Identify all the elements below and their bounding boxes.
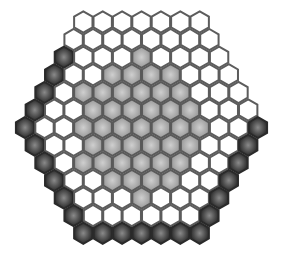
black-stone-cell[interactable] <box>191 223 209 244</box>
black-stone-cell[interactable] <box>35 152 53 173</box>
empty-cell[interactable] <box>74 47 92 68</box>
empty-cell[interactable] <box>239 99 257 120</box>
empty-cell[interactable] <box>152 47 170 68</box>
empty-cell[interactable] <box>220 64 238 85</box>
empty-cell[interactable] <box>229 117 247 138</box>
empty-cell[interactable] <box>64 64 82 85</box>
empty-cell[interactable] <box>191 47 209 68</box>
gray-stone-cell[interactable] <box>123 135 141 156</box>
empty-cell[interactable] <box>181 170 199 191</box>
empty-cell[interactable] <box>113 11 131 32</box>
empty-cell[interactable] <box>113 47 131 68</box>
gray-stone-cell[interactable] <box>152 152 170 173</box>
empty-cell[interactable] <box>161 205 179 226</box>
gray-stone-cell[interactable] <box>171 117 189 138</box>
empty-cell[interactable] <box>171 11 189 32</box>
empty-cell[interactable] <box>161 29 179 50</box>
black-stone-cell[interactable] <box>55 187 73 208</box>
empty-cell[interactable] <box>181 205 199 226</box>
black-stone-cell[interactable] <box>200 205 218 226</box>
empty-cell[interactable] <box>152 187 170 208</box>
empty-cell[interactable] <box>200 170 218 191</box>
empty-cell[interactable] <box>171 47 189 68</box>
empty-cell[interactable] <box>142 205 160 226</box>
empty-cell[interactable] <box>200 135 218 156</box>
empty-cell[interactable] <box>171 187 189 208</box>
gray-stone-cell[interactable] <box>152 82 170 103</box>
empty-cell[interactable] <box>94 47 112 68</box>
empty-cell[interactable] <box>191 152 209 173</box>
gray-stone-cell[interactable] <box>152 117 170 138</box>
gray-stone-cell[interactable] <box>123 99 141 120</box>
gray-stone-cell[interactable] <box>103 135 121 156</box>
black-stone-cell[interactable] <box>55 47 73 68</box>
gray-stone-cell[interactable] <box>191 117 209 138</box>
empty-cell[interactable] <box>84 64 102 85</box>
gray-stone-cell[interactable] <box>84 99 102 120</box>
empty-cell[interactable] <box>84 170 102 191</box>
gray-stone-cell[interactable] <box>132 47 150 68</box>
black-stone-cell[interactable] <box>45 170 63 191</box>
gray-stone-cell[interactable] <box>103 99 121 120</box>
empty-cell[interactable] <box>220 99 238 120</box>
empty-cell[interactable] <box>200 29 218 50</box>
gray-stone-cell[interactable] <box>142 135 160 156</box>
black-stone-cell[interactable] <box>113 223 131 244</box>
gray-stone-cell[interactable] <box>123 64 141 85</box>
gray-stone-cell[interactable] <box>181 135 199 156</box>
empty-cell[interactable] <box>64 99 82 120</box>
black-stone-cell[interactable] <box>220 170 238 191</box>
gray-stone-cell[interactable] <box>113 117 131 138</box>
black-stone-cell[interactable] <box>94 223 112 244</box>
gray-stone-cell[interactable] <box>142 99 160 120</box>
empty-cell[interactable] <box>45 135 63 156</box>
empty-cell[interactable] <box>55 82 73 103</box>
empty-cell[interactable] <box>94 187 112 208</box>
black-stone-cell[interactable] <box>229 152 247 173</box>
gray-stone-cell[interactable] <box>113 82 131 103</box>
empty-cell[interactable] <box>132 11 150 32</box>
empty-cell[interactable] <box>35 117 53 138</box>
gray-stone-cell[interactable] <box>171 82 189 103</box>
empty-cell[interactable] <box>210 82 228 103</box>
gray-stone-cell[interactable] <box>171 152 189 173</box>
empty-cell[interactable] <box>200 64 218 85</box>
black-stone-cell[interactable] <box>132 223 150 244</box>
empty-cell[interactable] <box>181 29 199 50</box>
empty-cell[interactable] <box>210 117 228 138</box>
gray-stone-cell[interactable] <box>161 170 179 191</box>
gray-stone-cell[interactable] <box>161 99 179 120</box>
gray-stone-cell[interactable] <box>142 64 160 85</box>
empty-cell[interactable] <box>123 205 141 226</box>
empty-cell[interactable] <box>74 11 92 32</box>
empty-cell[interactable] <box>55 117 73 138</box>
empty-cell[interactable] <box>191 11 209 32</box>
empty-cell[interactable] <box>191 187 209 208</box>
black-stone-cell[interactable] <box>171 223 189 244</box>
black-stone-cell[interactable] <box>45 64 63 85</box>
black-stone-cell[interactable] <box>64 205 82 226</box>
gray-stone-cell[interactable] <box>103 170 121 191</box>
empty-cell[interactable] <box>210 152 228 173</box>
gray-stone-cell[interactable] <box>94 152 112 173</box>
empty-cell[interactable] <box>84 29 102 50</box>
empty-cell[interactable] <box>103 29 121 50</box>
gray-stone-cell[interactable] <box>142 170 160 191</box>
empty-cell[interactable] <box>84 205 102 226</box>
gray-stone-cell[interactable] <box>103 64 121 85</box>
empty-cell[interactable] <box>200 99 218 120</box>
black-stone-cell[interactable] <box>210 187 228 208</box>
gray-stone-cell[interactable] <box>161 135 179 156</box>
black-stone-cell[interactable] <box>35 82 53 103</box>
empty-cell[interactable] <box>113 187 131 208</box>
gray-stone-cell[interactable] <box>94 82 112 103</box>
empty-cell[interactable] <box>191 82 209 103</box>
empty-cell[interactable] <box>181 64 199 85</box>
black-stone-cell[interactable] <box>16 117 34 138</box>
black-stone-cell[interactable] <box>152 223 170 244</box>
black-stone-cell[interactable] <box>249 117 267 138</box>
gray-stone-cell[interactable] <box>74 82 92 103</box>
gray-stone-cell[interactable] <box>113 152 131 173</box>
black-stone-cell[interactable] <box>239 135 257 156</box>
empty-cell[interactable] <box>103 205 121 226</box>
